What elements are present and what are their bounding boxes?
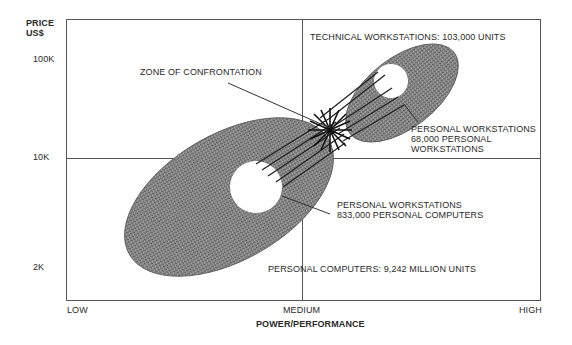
y-tick-2k: 2K [33,262,44,273]
y-axis-title-currency: US$ [26,28,44,39]
y-tick-10k: 10K [33,152,49,163]
x-tick-high: HIGH [519,305,542,316]
pc-core [230,161,282,213]
pc-region [98,85,360,309]
pw1-label-line3: WORKSTATIONS [411,144,484,155]
diagram-canvas [0,0,572,345]
confrontation-starburst [308,108,352,152]
tech-workstations-label: TECHNICAL WORKSTATIONS: 103,000 UNITS [310,32,506,43]
tech-core [374,64,408,98]
x-tick-medium: MEDIUM [283,305,320,316]
pw2-label-line2: 833,000 PERSONAL COMPUTERS [337,210,483,221]
zone-of-confrontation-label: ZONE OF CONFRONTATION [140,67,262,78]
x-axis-title: POWER/PERFORMANCE [256,319,365,330]
y-tick-100k: 100K [33,54,54,65]
pc-label: PERSONAL COMPUTERS: 9,242 MILLION UNITS [268,264,476,275]
x-tick-low: LOW [67,305,88,316]
